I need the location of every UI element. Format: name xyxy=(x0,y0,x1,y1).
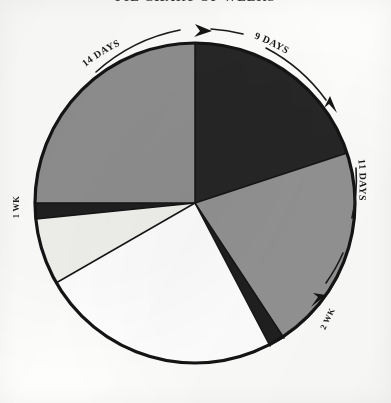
pie-chart-figure: 9 DAYS 14 DAYS 11 DAYS 1 WK 2 WK xyxy=(0,0,391,403)
arrow-top-icon xyxy=(194,24,212,37)
pie-chart-page: PIE CHART OF WEEKS xyxy=(0,0,391,403)
label-1-wk: 1 WK xyxy=(11,196,21,219)
slice-14-days[interactable] xyxy=(35,43,195,203)
pie-chart-svg: 9 DAYS 14 DAYS 11 DAYS 1 WK 2 WK xyxy=(0,0,391,403)
leader-top-arrow-tail xyxy=(211,29,243,34)
label-11-days: 11 DAYS xyxy=(356,159,368,202)
label-2-wk: 2 WK xyxy=(318,306,337,331)
